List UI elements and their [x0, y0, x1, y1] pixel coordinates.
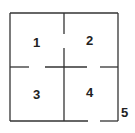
- room-2-label: 2: [86, 33, 93, 48]
- room-4-label: 4: [86, 85, 94, 100]
- room-1-label: 1: [33, 35, 40, 50]
- room-3-label: 3: [33, 87, 40, 102]
- outside-5-label: 5: [121, 105, 128, 120]
- floor-plan-diagram: 1 2 3 4 5: [0, 0, 135, 133]
